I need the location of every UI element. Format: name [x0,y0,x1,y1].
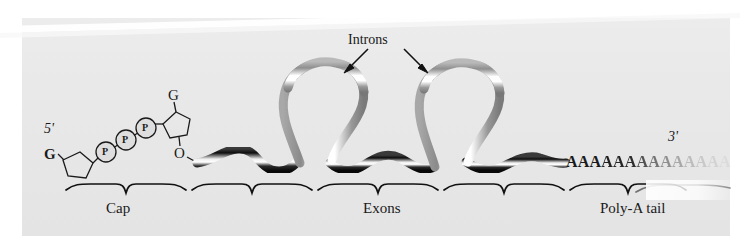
guanine-left-label: G [44,147,56,162]
phosphate-label-1: P [102,147,108,157]
poly-a-residue: A [660,154,672,170]
poly-a-residue: A [695,154,707,170]
poly-a-residue: A [613,154,625,170]
poly-a-residue: A [590,154,602,170]
poly-a-residue: A [601,154,613,170]
poly-a-residue: A [625,154,637,170]
introns-label: Introns [348,33,388,47]
oxygen-label: O [174,146,185,161]
section-label-cap: Cap [106,201,130,216]
phosphate-label-3: P [142,123,148,133]
five-prime-label: 5' [44,122,54,136]
poly-a-residue: A [684,154,696,170]
poly-a-residue: A [566,154,578,170]
poly-a-residue: A [648,154,660,170]
poly-a-residue: A [637,154,649,170]
mrna-structure-figure: P P P 5' G G O Introns 3' AAAAAAAAAAAAAA… [0,0,740,252]
poly-a-sequence: AAAAAAAAAAAAAA [566,154,731,170]
phosphate-label-2: P [122,135,128,145]
poly-a-residue: A [707,154,719,170]
poly-a-residue: A [672,154,684,170]
poly-a-residue: A [578,154,590,170]
section-label-polya: Poly-A tail [600,201,665,216]
three-prime-label: 3' [668,130,678,144]
section-label-exons: Exons [363,201,401,216]
guanine-right-label: G [168,88,179,103]
poly-a-residue: A [719,154,731,170]
